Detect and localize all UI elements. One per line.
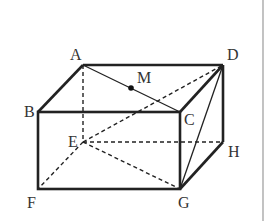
- label-E: E: [68, 133, 78, 150]
- prism-diagram: A B C D E F G H M: [0, 0, 270, 221]
- label-B: B: [24, 103, 35, 120]
- front-face-BCGF: [38, 112, 180, 189]
- edge-CD: [180, 65, 223, 112]
- label-M: M: [137, 69, 151, 86]
- point-M: [128, 85, 134, 91]
- edge-AB: [38, 65, 83, 112]
- label-H: H: [228, 143, 240, 160]
- label-G: G: [178, 194, 190, 211]
- diagonal-EG: [83, 142, 180, 189]
- label-A: A: [70, 46, 82, 63]
- label-F: F: [27, 194, 36, 211]
- edge-HG: [180, 142, 223, 189]
- label-D: D: [227, 46, 239, 63]
- label-C: C: [184, 111, 195, 128]
- diagonal-ED: [83, 65, 223, 142]
